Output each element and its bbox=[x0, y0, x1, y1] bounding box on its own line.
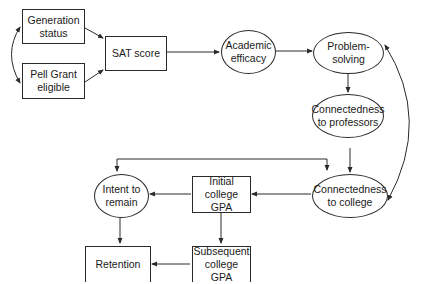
node-label: Connectedness to professors bbox=[312, 103, 385, 129]
node-label: Pell Grant eligible bbox=[30, 68, 77, 94]
node-connectedness-college: Connectedness to college bbox=[312, 174, 388, 218]
node-label: SAT score bbox=[112, 47, 160, 60]
edge-generation-pell bbox=[12, 27, 21, 83]
node-sat-score: SAT score bbox=[105, 36, 167, 71]
node-connectedness-professors: Connectedness to professors bbox=[312, 94, 384, 138]
node-label: Problem- solving bbox=[327, 40, 370, 66]
node-label: Generation status bbox=[28, 14, 80, 40]
node-label: Connectedness to college bbox=[314, 183, 387, 209]
node-initial-college-gpa: Initial college GPA bbox=[192, 176, 251, 213]
edge-intent-college bbox=[117, 159, 327, 171]
node-generation-status: Generation status bbox=[22, 9, 85, 44]
node-label: Retention bbox=[96, 258, 141, 271]
node-retention: Retention bbox=[85, 246, 151, 282]
node-subsequent-college-gpa: Subsequent college GPA bbox=[192, 246, 251, 282]
edge-pell-sat bbox=[85, 70, 103, 82]
edge-generation-sat bbox=[85, 28, 103, 38]
node-problem-solving: Problem- solving bbox=[313, 32, 384, 74]
node-label: Intent to remain bbox=[103, 183, 141, 209]
node-pell-grant-eligible: Pell Grant eligible bbox=[22, 63, 85, 99]
node-intent-to-remain: Intent to remain bbox=[94, 174, 149, 218]
node-label: Subsequent college GPA bbox=[193, 245, 250, 284]
node-label: Initial college GPA bbox=[193, 175, 250, 214]
edge-problem-college bbox=[385, 45, 409, 200]
node-label: Academic efficacy bbox=[225, 39, 271, 65]
node-academic-efficacy: Academic efficacy bbox=[221, 30, 276, 74]
